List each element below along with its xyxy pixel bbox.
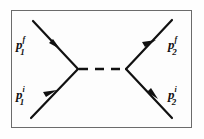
diagram-canvas	[0, 0, 204, 139]
momentum-label-p2i-superscript: i	[175, 85, 177, 94]
lower-right-fermion-line	[126, 69, 172, 118]
lower-left-fermion-line	[31, 69, 78, 118]
momentum-label-p1f-superscript: f	[23, 35, 26, 44]
momentum-label-p2i-subscript: 2	[172, 97, 177, 107]
momentum-label-p2f-subscript: 2	[172, 47, 177, 57]
feynman-diagram-figure: pf1 pi1 pf2 pi2	[0, 0, 204, 139]
momentum-label-p1i-subscript: 1	[20, 97, 25, 107]
momentum-label-p1i-superscript: i	[23, 85, 25, 94]
momentum-label-p1f-subscript: 1	[20, 47, 25, 57]
upper-right-fermion-line	[126, 20, 172, 69]
momentum-label-p2f: pf2	[168, 36, 182, 55]
momentum-label-p2f-superscript: f	[175, 35, 178, 44]
momentum-label-p1f: pf1	[16, 36, 30, 55]
momentum-label-p2i: pi2	[168, 86, 181, 105]
momentum-label-p1i: pi1	[16, 86, 29, 105]
